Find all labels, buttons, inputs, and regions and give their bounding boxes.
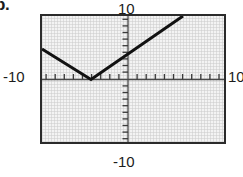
x-axis-min-label: -10 (3, 69, 25, 84)
x-axis-ticks (46, 74, 219, 80)
x-axis-max-label: 10 (228, 69, 243, 84)
x-axis (42, 74, 224, 80)
y-axis-min-label: -10 (113, 154, 135, 169)
calculator-screen (40, 14, 226, 144)
graph-plot (42, 16, 224, 142)
y-axis-max-label: 10 (118, 1, 135, 16)
list-item-marker: b. (0, 0, 9, 13)
function-curve (42, 16, 183, 80)
